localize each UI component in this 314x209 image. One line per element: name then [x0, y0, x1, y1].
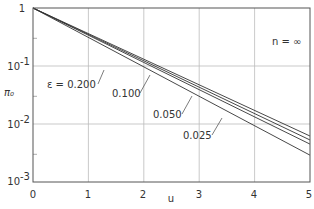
chart: 1 10 -1 10 -2 10 -3 0 1 2 3 4 5 u π₀ n =…: [0, 0, 314, 209]
x-tick-3: 3: [196, 189, 202, 200]
x-tick-1: 1: [85, 189, 91, 200]
x-axis-label: u: [168, 193, 174, 204]
series-line-1: [33, 8, 310, 140]
y-tick-10-2: 10 -2: [7, 114, 30, 130]
y-tick-1: 1: [19, 3, 25, 14]
x-tick-0: 0: [30, 189, 36, 200]
svg-text:10: 10: [7, 119, 20, 130]
series-label-0200: ε = 0.200: [47, 79, 96, 90]
svg-text:10: 10: [7, 61, 20, 72]
y-tick-10-3: 10 -3: [7, 171, 30, 187]
grid: [33, 8, 310, 182]
plot-frame: [33, 8, 310, 182]
series-label-0050: 0.050: [153, 109, 182, 120]
x-tick-2: 2: [140, 189, 146, 200]
svg-text:-3: -3: [20, 171, 30, 182]
y-tick-10-1: 10 -1: [7, 56, 30, 72]
x-tick-5: 5: [306, 189, 312, 200]
annotation-n-infinity: n = ∞: [272, 36, 301, 47]
y-axis-label: π₀: [4, 87, 14, 98]
svg-text:-1: -1: [20, 56, 30, 67]
series-label-0025: 0.025: [183, 130, 212, 141]
x-tick-4: 4: [251, 189, 257, 200]
label-leaders: [98, 70, 222, 135]
series-label-0100: 0.100: [112, 88, 141, 99]
svg-text:10: 10: [7, 176, 20, 187]
svg-text:-2: -2: [20, 114, 30, 125]
